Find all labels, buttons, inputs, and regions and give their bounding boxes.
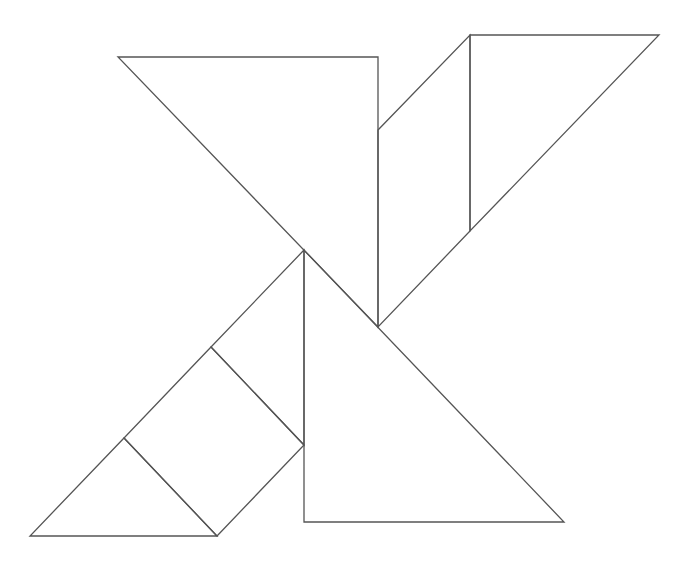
square (124, 347, 304, 536)
parallelogram (378, 35, 470, 327)
medium-upper-left-strip (211, 250, 304, 445)
small-triangle-bottom-left (30, 438, 217, 536)
large-triangle-bottom (304, 250, 564, 522)
medium-triangle-top-right (470, 35, 659, 231)
tangram-canvas (0, 0, 692, 570)
